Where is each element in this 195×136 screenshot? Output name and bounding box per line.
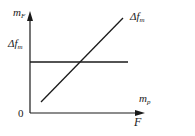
diagram: mF Δfm Δfm 0 mp F (0, 0, 195, 136)
x-axis-label-lower: F (133, 115, 142, 129)
y-axis-label: mF (13, 6, 26, 20)
origin-label: 0 (18, 107, 24, 119)
diagonal-line-label: Δfm (129, 10, 145, 24)
y-axis-arrow-icon (27, 11, 33, 21)
x-axis (30, 110, 145, 116)
horizontal-line-label: Δfm (7, 37, 23, 51)
diagram-canvas: mF Δfm Δfm 0 mp F (0, 0, 195, 136)
diagonal-line (41, 18, 123, 102)
x-axis-label-upper: mp (139, 92, 151, 106)
